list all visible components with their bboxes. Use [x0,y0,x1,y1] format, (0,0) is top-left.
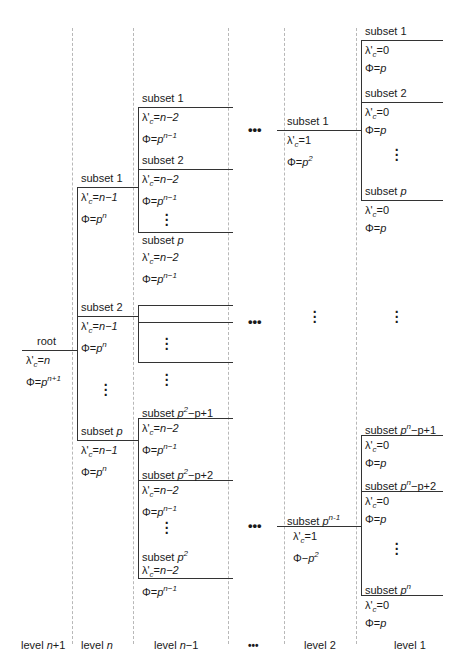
bracket [361,435,362,595]
phi-value: Φ=pn−1 [142,502,177,519]
level-label-2: level 2 [304,639,336,651]
vertical-ellipsis-icon: ··· [394,310,400,325]
edge [361,102,443,103]
node-label: subset p [81,425,123,438]
edge [138,362,233,363]
level-label-1: level 1 [394,639,426,651]
node-label: subset 1 [287,115,329,128]
phi-value: Φ=p [365,62,386,75]
bracket [77,187,78,440]
lambda-value: λ'c=n−2 [142,484,179,501]
lambda-value: λ'c=0 [365,204,389,221]
phi-value: Φ=p [365,222,386,235]
node-label: subset p2−p+1 [142,403,213,420]
phi-value: Φ=pn−1 [142,440,177,457]
edge [138,169,233,170]
vertical-ellipsis-icon: ··· [394,148,400,163]
edge [22,350,77,351]
edge [277,130,361,131]
vertical-ellipsis-icon: ··· [103,383,109,398]
horizontal-ellipsis-icon: ••• [248,122,262,137]
column-divider [133,28,134,644]
lambda-value: λ'c=n−2 [142,111,179,128]
lambda-value: λ'c=1 [287,134,311,151]
bracket [138,418,139,578]
edge [361,40,443,41]
lambda-value: λ'c=n [26,354,50,371]
edge [138,107,233,108]
phi-value: Φ=p [365,513,386,526]
lambda-value: λ'c=n−1 [81,191,118,208]
lambda-value: λ'c=n−2 [142,564,179,581]
vertical-ellipsis-icon: ··· [164,373,170,388]
node-label: subset 1 [365,25,407,38]
node-label: subset p [142,234,184,247]
edge [138,232,233,233]
phi-value: Φ=p2 [287,152,313,169]
lambda-value: λ'c=0 [365,495,389,512]
lambda-value: λ'c=0 [365,439,389,456]
phi-value: Φ=pn−1 [142,582,177,599]
edge [77,440,138,441]
edge [77,187,138,188]
edge [138,305,233,306]
node-label: subset 1 [81,172,123,185]
node-label: subset pn [365,580,411,597]
lambda-value: λ'c=0 [365,44,389,61]
vertical-ellipsis-icon: ··· [164,337,170,352]
phi-value: Φ=p [365,457,386,470]
node-label: subset 2 [142,154,184,167]
lambda-value: λ'c=n−1 [81,320,118,337]
lambda-value: λ'c=1 [293,530,317,547]
node-label: subset pn−p+1 [365,420,436,437]
lambda-value: λ'c=0 [365,106,389,123]
vertical-ellipsis-icon: ··· [394,542,400,557]
column-divider [72,28,73,644]
phi-value: Φ=pn−1 [142,129,177,146]
vertical-ellipsis-icon: ··· [164,213,170,228]
column-divider [228,28,229,644]
level-label-n-plus-1: level n+1 [21,639,65,651]
node-label: subset 2 [81,301,123,314]
node-label: subset pn−p+2 [365,476,436,493]
phi-value: Φ=pn+1 [26,372,61,389]
phi-value: Φ=p [365,124,386,137]
phi-value: Φ=pn [81,462,107,479]
horizontal-ellipsis-icon: ••• [248,518,262,533]
node-label: subset p2−p+2 [142,465,213,482]
edge [77,316,138,317]
horizontal-ellipsis-icon: ••• [248,314,262,329]
node-label: subset 1 [142,92,184,105]
lambda-value: λ'c=n−2 [142,422,179,439]
level-label-ellipsis: ••• [248,640,259,651]
edge [361,200,443,201]
column-divider [356,28,357,644]
phi-value: Φ=p [365,617,386,630]
vertical-ellipsis-icon: ··· [312,310,318,325]
level-label-n: level n [81,639,113,651]
bracket [361,40,362,200]
edge [138,322,233,323]
lambda-value: λ'c=0 [365,599,389,616]
node-label: root [37,335,56,348]
vertical-ellipsis-icon: ··· [164,521,170,536]
node-label: subset 2 [365,87,407,100]
lambda-value: λ'c=n−1 [81,444,118,461]
phi-value: Φ=pn [81,338,107,355]
node-label: subset pn-1 [287,511,340,528]
phi-value: Φ−p2 [293,548,319,565]
lambda-value: λ'c=n−2 [142,251,179,268]
node-label: subset p2 [142,547,188,564]
phi-value: Φ=pn−1 [142,269,177,286]
column-divider [284,28,285,644]
lambda-value: λ'c=n−2 [142,173,179,190]
level-label-n-minus-1: level n−1 [154,639,198,651]
phi-value: Φ=pn [81,209,107,226]
node-label: subset p [365,185,407,198]
phi-value: Φ=pn−1 [142,191,177,208]
bracket [138,305,139,362]
